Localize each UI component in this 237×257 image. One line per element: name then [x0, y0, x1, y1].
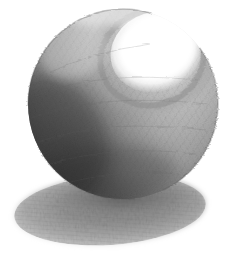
drawing-surface [0, 0, 237, 257]
pencil-sphere-drawing: Pencil drawing of a sphere rendered with… [0, 0, 237, 257]
